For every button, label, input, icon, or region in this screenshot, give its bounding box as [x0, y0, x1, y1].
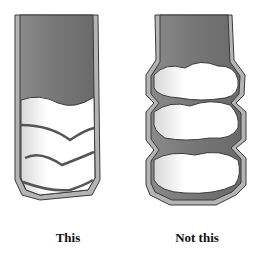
caption-this: This	[18, 230, 118, 246]
right-tube-illustration	[146, 15, 246, 205]
caption-not-this: Not this	[142, 230, 252, 246]
diagram	[0, 0, 260, 255]
left-tube-illustration	[15, 15, 100, 200]
